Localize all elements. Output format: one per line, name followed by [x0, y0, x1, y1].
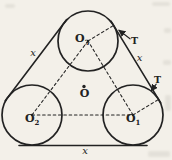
label-x-left: x	[30, 47, 36, 58]
label-o1: O1	[126, 112, 141, 127]
radius-line-o1-t	[133, 99, 159, 115]
geometry-figure: O3 O2 O1 O T T x x x	[0, 0, 172, 160]
radius-line-o3-t	[88, 25, 114, 41]
label-x-bottom: x	[82, 145, 88, 156]
label-o2: O2	[25, 112, 40, 127]
label-t-upper: T	[131, 35, 138, 46]
centers-line-o1-o3	[88, 41, 133, 115]
label-o-center: O	[80, 87, 90, 100]
label-t-lower: T	[154, 74, 161, 85]
label-o3: O3	[75, 32, 90, 47]
label-x-right: x	[137, 52, 143, 63]
tangent-line-left	[5, 20, 66, 101]
